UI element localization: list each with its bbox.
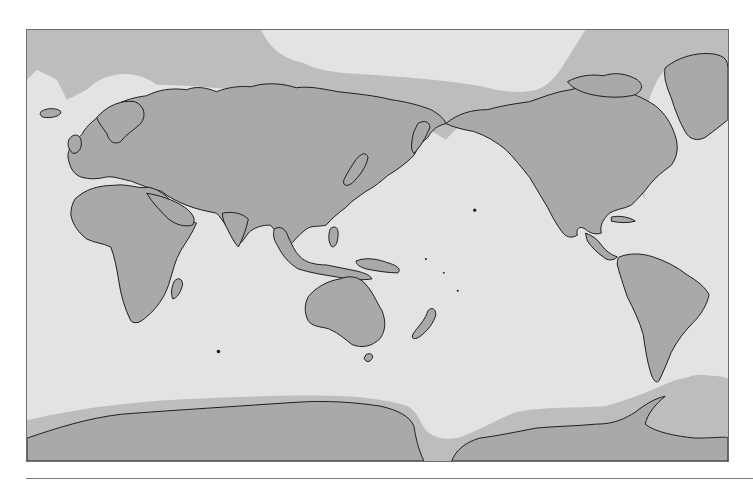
kerguelen-island [217, 350, 221, 354]
tasmania [364, 354, 373, 362]
pacific-islet [443, 272, 445, 274]
british-isles [68, 135, 81, 153]
world-map-frame [26, 29, 729, 462]
iceland [40, 109, 61, 118]
hawaii-island [473, 209, 476, 212]
world-map [27, 30, 728, 461]
pacific-islet [457, 290, 459, 292]
horizontal-rule [26, 478, 753, 479]
philippines [329, 227, 338, 247]
figure-canvas [0, 0, 753, 495]
pacific-islet [425, 258, 427, 260]
